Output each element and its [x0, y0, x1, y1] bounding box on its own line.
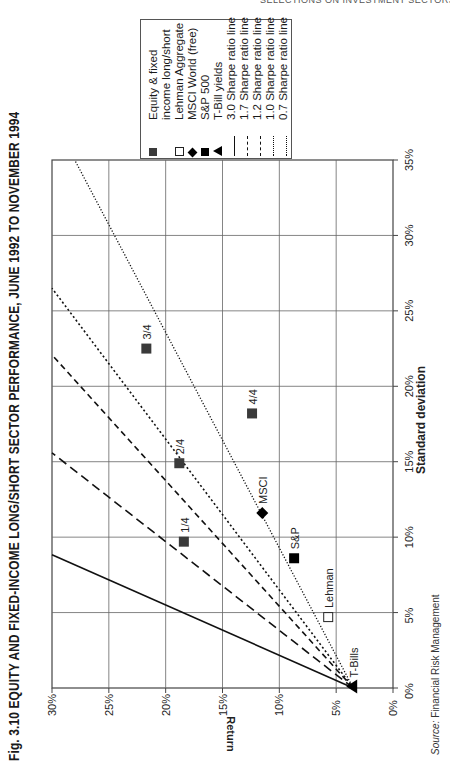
long-short-marker: [247, 408, 257, 418]
long-short-marker: [179, 537, 189, 547]
point-label: T-Bills: [348, 647, 360, 677]
return-tick-label: 0%: [387, 700, 399, 716]
long-short-marker: [174, 458, 184, 468]
stddev-axis-label: Standard deviation: [414, 366, 428, 474]
long-short-marker: [141, 344, 151, 354]
source-text: Financial Risk Management: [430, 594, 441, 717]
return-tick-label: 5%: [330, 700, 342, 716]
stddev-tick-label: 25%: [403, 300, 415, 322]
point-label: 2/4: [174, 439, 186, 454]
point-label: S&P: [289, 527, 301, 549]
tbill-marker: [346, 679, 357, 693]
source-label: Source:: [430, 721, 441, 755]
msci-marker: [256, 507, 268, 519]
stddev-tick-label: 10%: [403, 526, 415, 548]
stddev-tick-label: 5%: [403, 607, 415, 623]
stddev-tick-label: 30%: [403, 224, 415, 246]
return-tick-label: 15%: [217, 694, 229, 716]
return-tick-label: 20%: [160, 694, 172, 716]
sp500-marker: [289, 553, 299, 563]
return-axis-label: Return: [225, 716, 237, 752]
sharpe-line: [75, 160, 353, 688]
sharpe-line: [52, 453, 353, 688]
return-tick-label: 30%: [46, 694, 58, 716]
point-label: MSCI: [257, 477, 269, 505]
point-label: 3/4: [141, 324, 153, 339]
return-tick-label: 25%: [103, 694, 115, 716]
sharpe-line: [52, 355, 353, 688]
point-label: 1/4: [179, 517, 191, 532]
source-note: Source: Financial Risk Management: [430, 594, 441, 755]
sharpe-line: [52, 555, 353, 688]
lehman-marker: [324, 613, 333, 622]
stddev-tick-label: 0%: [403, 683, 415, 699]
stddev-tick-label: 35%: [403, 149, 415, 171]
scatter-plot: 0%5%10%15%20%25%30%0%5%10%15%20%25%30%35…: [0, 0, 450, 761]
point-label: 4/4: [247, 389, 259, 404]
point-label: Lehman: [323, 568, 335, 608]
return-tick-label: 10%: [273, 694, 285, 716]
